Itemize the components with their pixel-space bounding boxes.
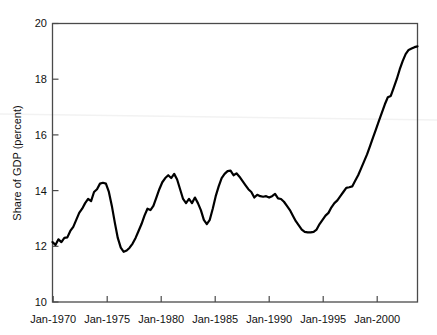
y-axis-tick-labels: 20 18 16 14 12 10 [35, 17, 47, 308]
gdp-share-line-chart: 20 18 16 14 12 10 Jan-1970 Jan-1975 Jan-… [0, 0, 437, 335]
y-tick-label: 16 [35, 129, 47, 141]
x-axis-tick-labels: Jan-1970 Jan-1975 Jan-1980 Jan-1985 Jan-… [30, 313, 400, 325]
chart-figure: 20 18 16 14 12 10 Jan-1970 Jan-1975 Jan-… [0, 0, 437, 335]
y-axis-ticks [53, 24, 59, 303]
x-tick-label: Jan-1985 [192, 313, 238, 325]
x-tick-label: Jan-1990 [246, 313, 292, 325]
x-axis-ticks [53, 296, 377, 302]
x-tick-label: Jan-1975 [84, 313, 130, 325]
y-tick-label: 12 [35, 240, 47, 252]
y-tick-label: 14 [35, 185, 47, 197]
x-tick-label: Jan-1980 [138, 313, 184, 325]
y-tick-label: 20 [35, 17, 47, 29]
x-tick-label: Jan-1970 [30, 313, 76, 325]
y-tick-label: 10 [35, 296, 47, 308]
y-axis-title: Share of GDP (percent) [11, 105, 23, 220]
x-tick-label: Jan-2000 [354, 313, 400, 325]
data-series-line [53, 46, 418, 252]
y-tick-label: 18 [35, 73, 47, 85]
x-tick-label: Jan-1995 [300, 313, 346, 325]
scan-artifact-line [0, 114, 437, 120]
